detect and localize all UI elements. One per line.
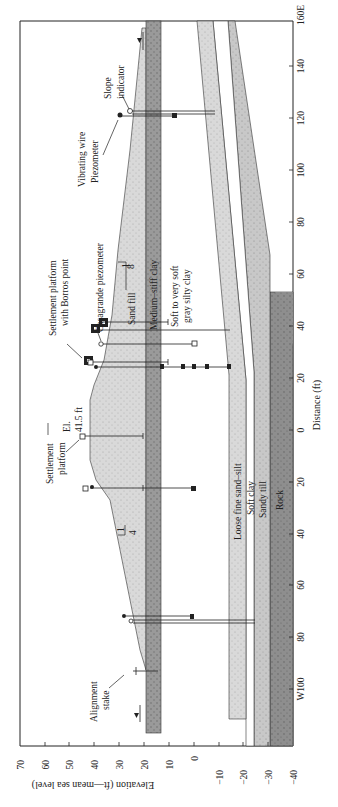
- svg-text:80: 80: [296, 632, 306, 642]
- label-sandy-till: Sandy till: [258, 481, 268, 518]
- svg-text:60: 60: [296, 269, 306, 279]
- svg-text:40: 40: [296, 529, 306, 539]
- label-alignment-stake-1: Alignment: [89, 681, 99, 722]
- label-settlement-borros-2: with Borros point: [60, 259, 70, 326]
- label-soft-gray-clay-1: Soft to very soft: [170, 265, 180, 327]
- layer-rock: [270, 292, 293, 746]
- svg-text:20: 20: [296, 373, 306, 383]
- label-rock: Rock: [275, 490, 285, 510]
- svg-text:4: 4: [128, 530, 138, 535]
- svg-text:140: 140: [296, 59, 306, 74]
- svg-text:1: 1: [121, 263, 131, 268]
- label-sand-fill: Sand fill: [127, 292, 137, 325]
- svg-text:1: 1: [116, 527, 126, 532]
- svg-text:−20: −20: [239, 770, 249, 785]
- layer-medium-stiff-clay: [146, 21, 161, 733]
- elevation-axis-title: Elevation (ft—mean sea level): [32, 779, 154, 791]
- svg-text:40: 40: [90, 760, 100, 770]
- distance-axis-title: Distance (ft): [311, 380, 323, 430]
- label-soft-clay: Soft clay: [246, 481, 256, 515]
- distance-axis: 160E 140 120 100 80 60 40 20 0 20 40 60 …: [289, 5, 323, 701]
- svg-text:60: 60: [41, 760, 51, 770]
- svg-text:20: 20: [296, 477, 306, 487]
- svg-text:W100: W100: [296, 677, 306, 700]
- label-settlement-borros-1: Settlement platform: [48, 260, 58, 336]
- label-loose-sand-silt: Loose fine sand–silt: [233, 463, 243, 540]
- svg-text:10: 10: [165, 760, 175, 770]
- label-casagrande: Casagrande piezometer: [95, 242, 105, 332]
- water-table-left-icon: [134, 705, 140, 722]
- elevation-axis: 70 60 50 40 30 20 10 0 −10 −20 −30 −40 E…: [16, 742, 299, 791]
- label-vibrating-wire-2: Piezometer: [90, 139, 100, 183]
- svg-text:40: 40: [296, 321, 306, 331]
- label-crest-elevation-1: El.: [62, 421, 72, 432]
- cross-section-diagram: 8 1 4 1: [0, 0, 338, 807]
- svg-text:50: 50: [65, 760, 75, 770]
- label-settlement-platform-2: platform: [57, 442, 67, 475]
- label-vibrating-wire-1: Vibrating wire: [77, 132, 87, 187]
- label-crest-elevation-2: 41.5 ft: [74, 407, 84, 432]
- svg-text:70: 70: [16, 760, 26, 770]
- label-alignment-stake-2: stake: [101, 690, 111, 710]
- svg-text:80: 80: [296, 217, 306, 227]
- label-settlement-platform-1: Settlement: [45, 443, 55, 484]
- svg-text:0: 0: [190, 756, 200, 761]
- svg-text:120: 120: [296, 111, 306, 126]
- label-slope-indicator-1: Slope: [103, 77, 113, 99]
- label-medium-stiff-clay: Medium–stiff clay: [149, 259, 159, 330]
- svg-text:30: 30: [115, 760, 125, 770]
- svg-text:−10: −10: [215, 770, 225, 785]
- svg-text:−30: −30: [264, 770, 274, 785]
- layer-sand-fill: [90, 28, 146, 670]
- svg-text:20: 20: [140, 760, 150, 770]
- svg-text:60: 60: [296, 580, 306, 590]
- svg-text:−40: −40: [289, 770, 299, 785]
- svg-text:0: 0: [296, 427, 306, 432]
- label-soft-gray-clay-2: gray silty clay: [182, 269, 192, 323]
- label-slope-indicator-2: indicator: [116, 64, 126, 99]
- svg-text:100: 100: [296, 163, 306, 178]
- svg-text:160E: 160E: [296, 5, 306, 25]
